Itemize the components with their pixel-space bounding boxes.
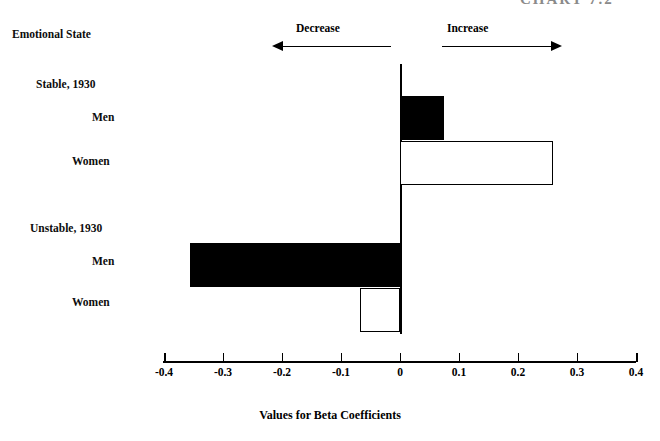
x-axis-tick--0.1 — [341, 353, 342, 362]
x-axis-tick-label-0.2: 0.2 — [511, 366, 525, 378]
x-axis-tick--0.3 — [223, 353, 224, 362]
x-axis-tick--0.2 — [282, 353, 283, 362]
x-axis-tick-label--0.3: -0.3 — [214, 366, 232, 378]
x-axis-tick-label--0.4: -0.4 — [155, 366, 173, 378]
plot-area: -0.4-0.3-0.2-0.100.10.20.30.4 — [0, 0, 660, 441]
x-axis-tick--0.4 — [164, 353, 166, 362]
x-axis-tick-0 — [400, 353, 401, 362]
x-axis-tick-0.3 — [577, 353, 578, 362]
x-axis-tick-0.2 — [518, 353, 519, 362]
x-axis-tick-label-0: 0 — [397, 366, 403, 378]
x-axis-tick-0.4 — [636, 353, 638, 362]
bar-stable-men — [400, 96, 444, 140]
bar-unstable-men — [190, 243, 400, 287]
chart-page: CHART 7.2 Emotional State Stable, 1930 M… — [0, 0, 660, 441]
x-axis-title: Values for Beta Coefficients — [0, 408, 660, 423]
x-axis-tick-label--0.1: -0.1 — [332, 366, 350, 378]
x-axis-tick-label--0.2: -0.2 — [273, 366, 291, 378]
x-axis-tick-label-0.3: 0.3 — [570, 366, 584, 378]
x-axis-tick-label-0.4: 0.4 — [629, 366, 643, 378]
x-axis-tick-0.1 — [459, 353, 460, 362]
bar-unstable-women — [360, 288, 400, 332]
bar-stable-women — [400, 141, 553, 185]
x-axis-tick-label-0.1: 0.1 — [452, 366, 466, 378]
